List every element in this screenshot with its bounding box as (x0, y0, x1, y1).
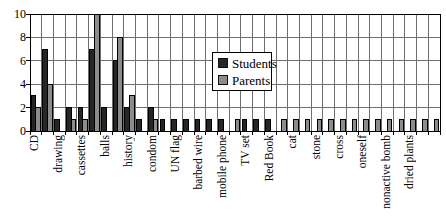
bar-chart: 0246810 CDdrawingcassettesballshistoryco… (0, 0, 446, 217)
x-category-label: drawing (53, 135, 66, 173)
x-category-label: oneself (357, 135, 370, 168)
x-category-label: cassettes (76, 135, 89, 175)
x-category-label: mobile phone (217, 135, 230, 198)
x-category-label: cat (287, 135, 300, 148)
x-category-label: history (123, 135, 136, 167)
x-category-label: cross (334, 135, 347, 159)
x-category-label: UN flag (170, 135, 183, 172)
x-category-label: CD (29, 135, 42, 151)
x-category-label: nonactive bomb (381, 135, 394, 209)
x-category-label: stone (311, 135, 324, 159)
legend-label-students: Students (232, 57, 277, 70)
x-category-label: barbed wire (193, 135, 206, 190)
legend-label-parents: Parents (232, 74, 270, 87)
legend-item-students: Students (218, 57, 271, 70)
chart-legend: Students Parents (212, 52, 272, 91)
x-category-label: TV set (240, 135, 253, 166)
students-swatch-icon (218, 58, 228, 68)
legend-item-parents: Parents (218, 74, 271, 87)
x-category-label: Red Book (264, 135, 277, 181)
x-axis-category-labels: CDdrawingcassettesballshistorycondomUN f… (0, 0, 446, 217)
x-category-label: condom (147, 135, 160, 172)
x-category-label: dried plants (404, 135, 417, 189)
x-category-label: balls (100, 135, 113, 157)
parents-swatch-icon (218, 75, 228, 85)
